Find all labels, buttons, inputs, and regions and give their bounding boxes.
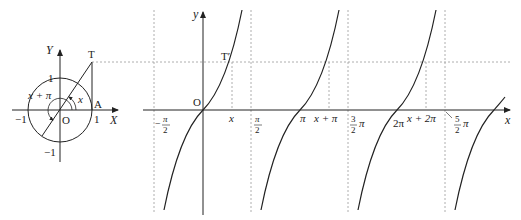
label-neg-half-pi-den: 2: [163, 125, 168, 135]
label-half-pi-num: π: [255, 114, 260, 124]
label-five-half-pi-den: 2: [455, 125, 460, 135]
label-T-prime: T′: [221, 50, 230, 62]
tan-branch-3: [455, 97, 505, 210]
label-T: T: [88, 48, 95, 60]
label-neg1-y: −1: [44, 146, 56, 158]
label-pi: π: [300, 112, 306, 124]
tangent-diagram: Y X 1 −1 1 −1 O A T x x + π y x O T′: [0, 0, 521, 220]
label-three-half-pi-den: 2: [351, 125, 356, 135]
label-1-y: 1: [48, 72, 54, 84]
label-three-half-pi-suffix: π: [359, 117, 365, 129]
label-two-pi: 2π: [393, 117, 405, 129]
label-O-circle: O: [62, 114, 70, 126]
label-y: y: [192, 7, 199, 21]
unit-circle-figure: Y X 1 −1 1 −1 O A T x x + π: [12, 43, 118, 162]
label-five-half-pi-suffix: π: [463, 117, 469, 129]
label-five-half-pi-num: 5: [455, 114, 460, 124]
label-A: A: [94, 98, 102, 110]
label-neg-half-pi-num: π: [163, 114, 168, 124]
label-x-axis: x: [504, 113, 511, 127]
label-neg-sign: −: [155, 118, 161, 129]
label-Y: Y: [46, 43, 54, 57]
tangent-graph: y x O T′ − π 2 π 2 x π x + π 3 2 π 2π x …: [143, 7, 511, 215]
label-angle-x-plus-pi: x + π: [27, 89, 52, 101]
label-O: O: [193, 96, 201, 108]
label-x-plus-pi: x + π: [313, 112, 338, 124]
label-1-x: 1: [94, 113, 100, 125]
label-x-plus-2pi: x + 2π: [406, 112, 436, 124]
label-x-tick: x: [228, 112, 234, 124]
label-X: X: [109, 113, 118, 127]
label-three-half-pi-num: 3: [351, 114, 356, 124]
label-angle-x: x: [77, 93, 83, 105]
label-neg1-x: −1: [15, 113, 27, 125]
label-half-pi-den: 2: [255, 125, 260, 135]
